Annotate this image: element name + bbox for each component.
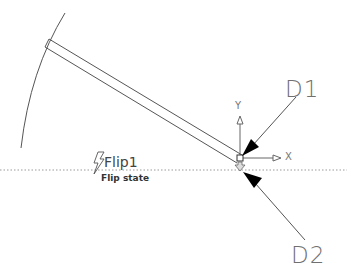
d2-arrowhead-icon: [243, 172, 262, 188]
y-axis-arrow-icon: [237, 116, 243, 124]
ucs-icon: [235, 116, 281, 171]
lightning-bolt-icon: [94, 152, 104, 174]
d1-leader-line: [253, 97, 296, 145]
x-axis-arrow-icon: [273, 155, 281, 161]
d1-label: D1: [285, 78, 319, 101]
flip-grip-arrow-icon: [235, 162, 245, 171]
cad-drawing-canvas[interactable]: D1 D2 Y X Flip1 Flip state: [0, 0, 347, 276]
beam-top-edge: [49, 39, 242, 155]
beam-end-cap: [45, 39, 49, 47]
d2-leader-line: [255, 183, 305, 240]
d2-label: D2: [291, 244, 325, 267]
x-axis-label: X: [285, 152, 292, 162]
drawing-geometry: [0, 0, 347, 276]
flip-parameter-name[interactable]: Flip1: [104, 155, 138, 169]
y-axis-label: Y: [235, 101, 241, 111]
boundary-arc: [21, 13, 65, 148]
flip-state-label: Flip state: [101, 174, 149, 183]
beam-bottom-edge: [45, 47, 237, 163]
